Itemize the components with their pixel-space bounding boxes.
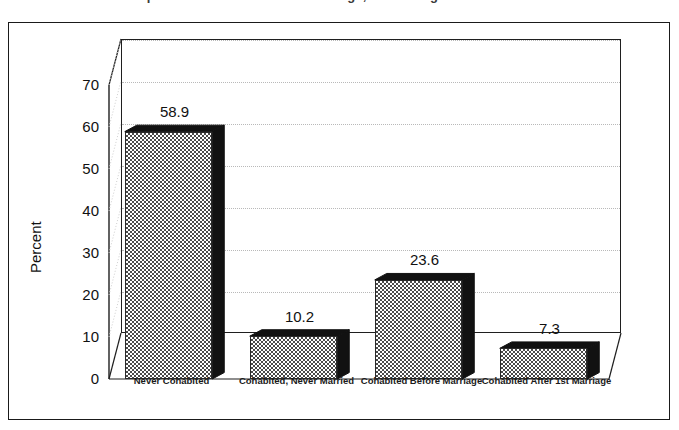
y-tick-label: 40 — [55, 203, 99, 218]
y-tick-label: 50 — [55, 161, 99, 176]
depth-edge-bottom-right — [609, 333, 621, 379]
bar-side-face — [212, 125, 224, 379]
depth-edge-bottom-left — [109, 333, 121, 379]
left-wall-gridline — [109, 165, 121, 211]
bar-value-label: 7.3 — [480, 320, 620, 337]
figure-title-strip: 4.2Cohabitation Experience Relative to F… — [0, 0, 679, 11]
y-tick-label: 60 — [55, 119, 99, 134]
left-wall-gridline — [109, 291, 121, 337]
y-tick-label: 20 — [55, 287, 99, 302]
plot-area: 010203040506070 Percent 58.910.223.67.3 … — [9, 23, 671, 421]
x-axis-labels: Never CohabitedCohabited, Never MarriedC… — [9, 375, 671, 395]
bar-face — [125, 132, 213, 379]
bar — [250, 336, 338, 379]
figure-number: 4.2 — [8, 0, 26, 3]
y-axis-title: Percent — [27, 221, 44, 273]
left-wall-gridline — [109, 123, 121, 169]
chart-page: 4.2Cohabitation Experience Relative to F… — [0, 0, 679, 430]
bar — [125, 132, 213, 379]
bar-face — [375, 280, 463, 379]
x-category-label: Cohabited After 1st Marriage — [457, 375, 637, 386]
y-tick-label: 10 — [55, 329, 99, 344]
bar-side-face — [462, 273, 474, 379]
bar-value-label: 58.9 — [105, 103, 245, 120]
figure-title-text: Cohabitation Experience Relative to Firs… — [46, 0, 491, 3]
left-wall-gridline — [109, 249, 121, 295]
figure-title: 4.2Cohabitation Experience Relative to F… — [8, 0, 491, 3]
bar-face — [250, 336, 338, 379]
bar-side-face — [587, 342, 599, 379]
bar-value-label: 23.6 — [355, 251, 495, 268]
bar — [375, 280, 463, 379]
y-tick-label: 70 — [55, 77, 99, 92]
depth-edge-top-left — [109, 39, 121, 85]
bar-side-face — [337, 330, 349, 379]
left-wall-gridline — [109, 207, 121, 253]
chart-frame: 010203040506070 Percent 58.910.223.67.3 … — [8, 22, 670, 420]
y-tick-label: 30 — [55, 245, 99, 260]
bar-value-label: 10.2 — [230, 308, 370, 325]
